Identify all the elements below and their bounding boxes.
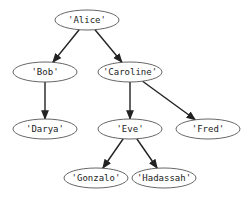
node-fred: 'Fred' xyxy=(176,119,240,139)
tree-canvas: 'Alice''Bob''Caroline''Darya''Eve''Fred'… xyxy=(0,0,248,197)
edge-eve-to-gonzalo xyxy=(103,139,123,168)
edge-alice-to-bob xyxy=(53,30,79,63)
arrow-icon xyxy=(103,139,123,168)
arrow-icon xyxy=(143,81,196,120)
edge-caroline-to-fred xyxy=(143,81,196,120)
arrow-icon xyxy=(137,139,157,168)
edge-alice-to-caroline xyxy=(95,30,122,63)
node-label: 'Gonzalo' xyxy=(72,173,121,183)
arrow-icon xyxy=(53,30,79,63)
node-gonzalo: 'Gonzalo' xyxy=(64,168,128,188)
node-caroline: 'Caroline' xyxy=(98,62,162,82)
tree-diagram: 'Alice''Bob''Caroline''Darya''Eve''Fred'… xyxy=(0,0,248,197)
node-eve: 'Eve' xyxy=(98,119,162,139)
node-label: 'Fred' xyxy=(192,124,225,134)
node-hadassah: 'Hadassah' xyxy=(132,168,196,188)
node-alice: 'Alice' xyxy=(55,10,119,30)
node-label: 'Eve' xyxy=(116,124,143,134)
node-label: 'Hadassah' xyxy=(137,173,191,183)
node-darya: 'Darya' xyxy=(13,119,77,139)
edge-eve-to-hadassah xyxy=(137,139,157,168)
node-label: 'Bob' xyxy=(31,67,58,77)
node-label: 'Caroline' xyxy=(103,67,157,77)
node-label: 'Alice' xyxy=(68,15,106,25)
node-bob: 'Bob' xyxy=(13,62,77,82)
node-label: 'Darya' xyxy=(26,124,64,134)
arrow-icon xyxy=(95,30,122,63)
